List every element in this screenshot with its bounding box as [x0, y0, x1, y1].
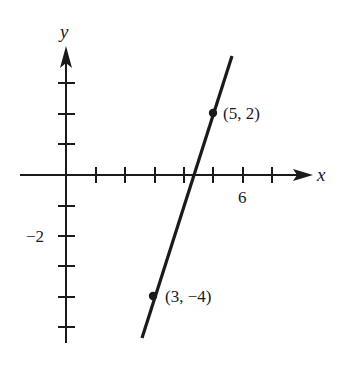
x-axis-label: x — [316, 164, 326, 185]
x-tick-label-6: 6 — [238, 188, 247, 207]
y-axis-label: y — [58, 21, 69, 42]
point-5-2 — [209, 109, 217, 117]
coordinate-plot: x y 6 −2 (5, 2) (3, −4) — [0, 0, 341, 369]
point-3-neg4 — [149, 292, 157, 300]
point-label-3-neg4: (3, −4) — [165, 287, 211, 306]
y-tick-label-neg2: −2 — [26, 227, 44, 246]
point-label-5-2: (5, 2) — [223, 104, 260, 123]
